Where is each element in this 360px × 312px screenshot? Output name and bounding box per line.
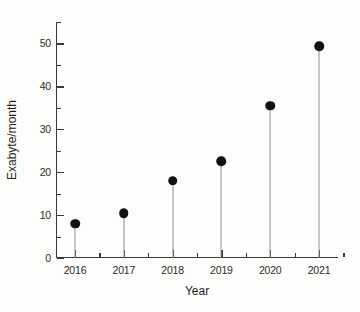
y-axis-title-label: Exabyte/month xyxy=(5,100,19,180)
y-tick-major xyxy=(57,129,64,130)
data-stem xyxy=(75,224,76,258)
y-tick-label: 20 xyxy=(40,166,51,178)
x-tick-minor xyxy=(99,253,100,257)
y-tick-label: 40 xyxy=(40,80,51,92)
y-tick-label: 30 xyxy=(40,123,51,135)
y-tick-minor xyxy=(57,237,61,238)
y-tick-minor xyxy=(57,65,61,66)
data-point xyxy=(168,176,178,186)
y-tick-minor xyxy=(57,151,61,152)
y-tick-major xyxy=(57,86,64,87)
y-tick-major xyxy=(57,258,64,259)
data-stem xyxy=(123,213,124,258)
y-tick-label: 0 xyxy=(45,252,51,264)
data-point xyxy=(70,219,80,229)
data-point xyxy=(314,42,324,52)
x-tick-label: 2018 xyxy=(161,264,184,276)
plot-area: 01020304050 201620172018201920202021 xyxy=(56,22,338,258)
x-axis-title-label: Year xyxy=(185,284,209,298)
x-tick-label: 2019 xyxy=(210,264,233,276)
x-tick-label: 2021 xyxy=(308,264,331,276)
data-stem xyxy=(221,161,222,258)
y-axis-line xyxy=(56,22,57,258)
data-stem xyxy=(319,46,320,258)
y-tick-minor xyxy=(57,194,61,195)
y-tick-label: 10 xyxy=(40,209,51,221)
y-tick-minor xyxy=(57,108,61,109)
y-tick-major xyxy=(57,43,64,44)
x-axis-title: Year xyxy=(56,284,338,298)
data-point xyxy=(119,209,129,219)
x-tick-label: 2017 xyxy=(113,264,136,276)
x-tick-minor xyxy=(343,253,344,257)
x-tick-label: 2016 xyxy=(64,264,87,276)
chart-figure: Exabyte/month 01020304050 20162017201820… xyxy=(0,0,360,312)
y-tick-major xyxy=(57,215,64,216)
data-stem xyxy=(172,181,173,258)
data-point xyxy=(217,157,227,167)
y-tick-minor xyxy=(57,22,61,23)
y-tick-major xyxy=(57,172,64,173)
x-tick-minor xyxy=(246,253,247,257)
y-axis-title: Exabyte/month xyxy=(4,22,20,258)
x-tick-label: 2020 xyxy=(259,264,282,276)
data-stem xyxy=(270,106,271,258)
x-tick-minor xyxy=(197,253,198,257)
y-tick-label: 50 xyxy=(40,37,51,49)
x-tick-minor xyxy=(148,253,149,257)
data-point xyxy=(265,101,275,111)
x-tick-minor xyxy=(295,253,296,257)
